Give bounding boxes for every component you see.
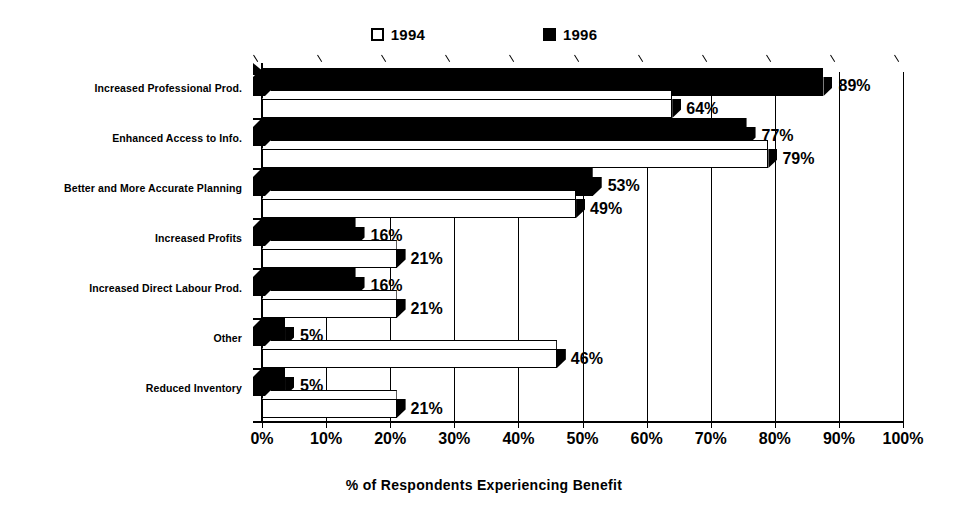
y-tick-5 [253,318,262,320]
bar-top-face [262,90,672,99]
x-tick-20 [390,421,391,428]
x-tick-60 [647,421,648,428]
bar-face [262,299,397,318]
bar-face [262,249,397,268]
category-label-0: Increased Professional Prod. [94,82,242,94]
x-axis-label-50: 50% [566,430,598,448]
x-tick-100 [903,421,904,428]
y-tick-3 [253,218,262,220]
x-tick-back-30 [445,55,450,62]
category-label-2: Better and More Accurate Planning [64,182,242,194]
gridline-100 [903,72,904,422]
y-tick-2 [253,168,262,170]
bar-side-face [672,99,681,118]
x-axis-label-60: 60% [631,430,663,448]
category-label-1: Enhanced Access to Info. [112,132,242,144]
x-tick-back-50 [574,55,579,62]
bar-face [262,99,672,118]
bar-face [262,199,576,218]
bar-1994-6 [262,399,397,418]
x-tick-back-60 [638,55,643,62]
x-axis-label-10: 10% [310,430,342,448]
x-tick-10 [326,421,327,428]
x-tick-70 [711,421,712,428]
x-tick-50 [583,421,584,428]
legend-swatch-1994 [371,28,384,41]
bar-1994-2 [262,199,576,218]
chart-legend: 1994 1996 [0,26,968,43]
value-label-1994-0: 64% [686,100,718,118]
bar-top-face [262,140,768,149]
category-label-5: Other [213,332,242,344]
bar-side-face [557,349,566,368]
value-label-1994-3: 21% [411,250,443,268]
value-label-1994-2: 49% [590,200,622,218]
value-label-1996-0: 89% [838,77,870,95]
legend-item-1996: 1996 [543,26,597,43]
x-tick-back-90 [830,55,835,62]
bar-chart: 1994 1996 89%64%77%79%53%49%16%21%16%21%… [0,0,968,510]
bar-1994-5 [262,349,557,368]
x-tick-back-70 [702,55,707,62]
x-tick-back-0 [253,55,258,62]
category-label-6: Reduced Inventory [146,382,242,394]
value-label-1996-1: 77% [762,127,794,145]
value-label-1996-2: 53% [608,177,640,195]
bar-1994-4 [262,299,397,318]
legend-swatch-1996 [543,28,556,41]
bar-face [262,149,768,168]
bar-top-face [262,190,576,199]
x-axis-label-40: 40% [502,430,534,448]
bar-top-face [253,218,356,227]
value-label-1994-1: 79% [782,150,814,168]
category-label-3: Increased Profits [155,232,242,244]
x-tick-back-40 [509,55,514,62]
value-label-1996-4: 16% [371,277,403,295]
bar-side-face [823,77,832,96]
bar-1994-0 [262,99,672,118]
x-axis-label-30: 30% [438,430,470,448]
bar-side-face [768,149,777,168]
bar-side-face [397,249,406,268]
x-tick-back-80 [766,55,771,62]
x-axis-label-100: 100% [883,430,924,448]
y-tick-4 [253,268,262,270]
gridline-80 [775,72,776,422]
x-tick-0 [262,421,263,428]
value-label-1996-3: 16% [371,227,403,245]
x-tick-back-100 [894,55,899,62]
legend-item-1994: 1994 [371,26,425,43]
bar-top-face [253,168,593,177]
x-axis-label-90: 90% [823,430,855,448]
bar-top-face [262,390,397,399]
bar-1994-3 [262,249,397,268]
bar-side-face [397,399,406,418]
legend-label-1994: 1994 [391,26,425,43]
y-tick-6 [253,368,262,370]
value-label-1994-6: 21% [411,400,443,418]
bar-top-face [253,118,747,127]
y-tick-1 [253,118,262,120]
gridline-90 [839,72,840,422]
category-label-4: Increased Direct Labour Prod. [89,282,242,294]
x-tick-80 [775,421,776,428]
bar-top-face [253,68,823,77]
value-label-1994-5: 46% [571,350,603,368]
x-axis-label-20: 20% [374,430,406,448]
x-tick-40 [518,421,519,428]
bar-top-face [253,268,356,277]
x-axis-label-70: 70% [695,430,727,448]
x-axis-label-0: 0% [250,430,273,448]
bar-side-face [397,299,406,318]
x-axis-title: % of Respondents Experiencing Benefit [0,477,968,493]
x-tick-back-10 [317,55,322,62]
bar-side-face [576,199,585,218]
bar-face [262,399,397,418]
value-label-1996-6: 5% [300,377,323,395]
category-label-area: Increased Professional Prod.Enhanced Acc… [0,63,250,422]
bar-side-face [593,177,602,196]
x-tick-30 [454,421,455,428]
x-axis-labels: 0%10%20%30%40%50%60%70%80%90%100% [0,430,968,454]
value-label-1994-4: 21% [411,300,443,318]
plot-area: 89%64%77%79%53%49%16%21%16%21%5%46%5%21% [262,72,903,422]
